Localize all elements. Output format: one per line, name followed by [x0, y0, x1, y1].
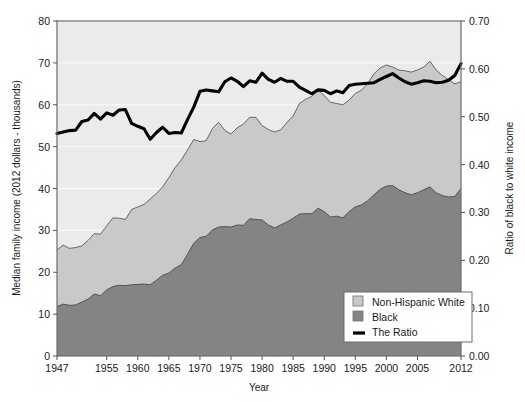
x-tick-label: 1985	[282, 362, 306, 374]
x-tick-label: 1947	[45, 362, 69, 374]
x-tick-label: 2005	[406, 362, 430, 374]
y-tick-label: 0	[44, 350, 50, 362]
y2-tick-label: 0.20	[469, 254, 490, 266]
y2-tick-label: 0.50	[469, 111, 490, 123]
x-tick-label: 1990	[313, 362, 337, 374]
y2-tick-label: 0.00	[469, 350, 490, 362]
y2-axis-title: Ratio of black to white income	[504, 121, 515, 254]
chart-legend[interactable]: Non-Hispanic WhiteBlackThe Ratio	[344, 292, 472, 342]
x-tick-label: 1970	[188, 362, 212, 374]
y-tick-label: 80	[38, 15, 50, 27]
x-tick-label: 2000	[375, 362, 399, 374]
income-ratio-chart: 01020304050607080 0.000.100.200.300.400.…	[0, 0, 525, 402]
legend-swatch-area	[353, 296, 363, 306]
legend-item-label: Black	[372, 311, 398, 323]
y2-tick-label: 0.30	[469, 206, 490, 218]
x-tick-label: 1965	[157, 362, 181, 374]
x-tick-label: 1980	[250, 362, 274, 374]
y2-tick-label: 0.70	[469, 15, 490, 27]
y-axis-title: Median family income (2012 dollars - tho…	[11, 80, 22, 296]
y-tick-label: 50	[38, 141, 50, 153]
legend-item-label: The Ratio	[372, 326, 418, 338]
x-tick-label: 1975	[219, 362, 243, 374]
y-tick-label: 70	[38, 57, 50, 69]
chart-figure: 01020304050607080 0.000.100.200.300.400.…	[0, 0, 525, 402]
y-tick-label: 40	[38, 183, 50, 195]
legend-item-label: Non-Hispanic White	[372, 296, 465, 308]
x-axis-title: Year	[249, 382, 270, 393]
x-tick-label: 1995	[344, 362, 368, 374]
legend-swatch-area	[353, 311, 363, 321]
x-tick-label: 1960	[126, 362, 150, 374]
x-tick-label: 1955	[95, 362, 119, 374]
y-tick-label: 20	[38, 266, 50, 278]
y-tick-label: 30	[38, 224, 50, 236]
y-tick-label: 60	[38, 99, 50, 111]
y2-tick-label: 0.40	[469, 159, 490, 171]
y2-tick-label: 0.60	[469, 63, 490, 75]
x-tick-label: 2012	[449, 362, 473, 374]
y-tick-label: 10	[38, 308, 50, 320]
